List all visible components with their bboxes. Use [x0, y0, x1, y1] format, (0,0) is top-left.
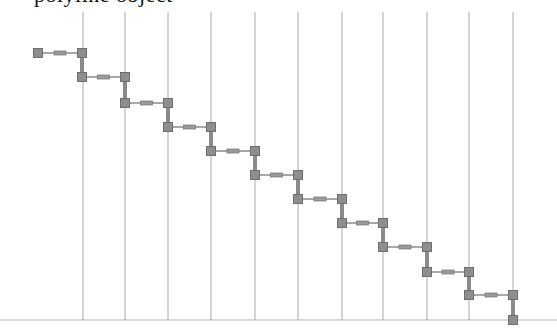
- vertex-handle[interactable]: [338, 219, 347, 228]
- segment-midpoint-handle[interactable]: [227, 149, 239, 153]
- vertex-handle[interactable]: [338, 195, 347, 204]
- segment-midpoint-handle[interactable]: [399, 245, 411, 249]
- vertex-handle[interactable]: [465, 291, 474, 300]
- vertex-handle[interactable]: [164, 123, 173, 132]
- segment-midpoint-handle[interactable]: [442, 270, 454, 274]
- vertex-handle[interactable]: [294, 195, 303, 204]
- vertex-handle[interactable]: [423, 268, 432, 277]
- polyline-segments[interactable]: [38, 53, 513, 320]
- vertex-handle[interactable]: [34, 49, 43, 58]
- vertex-handle[interactable]: [164, 99, 173, 108]
- vertex-handle[interactable]: [251, 171, 260, 180]
- vertex-handle[interactable]: [379, 243, 388, 252]
- vertex-handle[interactable]: [121, 99, 130, 108]
- segment-midpoint-handle[interactable]: [485, 293, 497, 297]
- vertex-handle[interactable]: [207, 123, 216, 132]
- vertex-handle[interactable]: [121, 73, 130, 82]
- vertex-handle[interactable]: [465, 268, 474, 277]
- polyline-diagram: [0, 0, 557, 331]
- segment-midpoint-handle[interactable]: [184, 125, 196, 129]
- segment-midpoint-handle[interactable]: [314, 197, 326, 201]
- vertex-handle[interactable]: [78, 73, 87, 82]
- polyline-vertices[interactable]: [34, 49, 518, 325]
- vertex-handle[interactable]: [251, 147, 260, 156]
- segment-midpoint-handle[interactable]: [98, 75, 110, 79]
- segment-midpoint-handle[interactable]: [141, 101, 153, 105]
- vertex-handle[interactable]: [207, 147, 216, 156]
- segment-midpoint-handle[interactable]: [271, 173, 283, 177]
- segment-midpoint-handle[interactable]: [54, 51, 66, 55]
- vertex-handle[interactable]: [379, 219, 388, 228]
- vertex-handle[interactable]: [78, 49, 87, 58]
- vertex-handle[interactable]: [509, 291, 518, 300]
- segment-midpoint-handle[interactable]: [357, 221, 369, 225]
- vertex-handle[interactable]: [423, 243, 432, 252]
- segment-midpoint-handles[interactable]: [54, 51, 497, 297]
- vertex-handle[interactable]: [294, 171, 303, 180]
- vertex-handle[interactable]: [509, 316, 518, 325]
